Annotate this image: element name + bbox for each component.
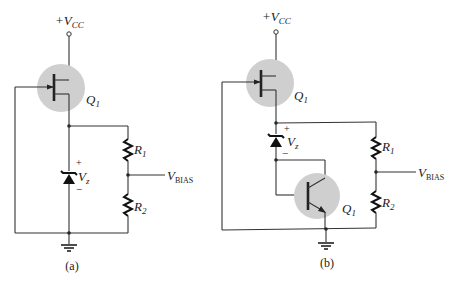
bjt-highlight-b: [294, 173, 340, 219]
resistor-r2-a: [124, 194, 132, 216]
vcc-label-b: +VCC: [262, 9, 292, 26]
vbias-label-b: VBIAS: [418, 165, 444, 182]
caption-b: (b): [320, 256, 334, 270]
vcc-terminal-a: [67, 32, 71, 36]
zener-plus-a: +: [76, 157, 82, 168]
q1-bjt-label-b: Q1: [342, 201, 356, 218]
circuit-diagram: +VCC Q1 + − Vz: [0, 0, 458, 284]
jfet-highlight-a: [37, 64, 85, 112]
r1-label-a: R1: [133, 142, 146, 159]
zener-minus-a: −: [76, 183, 82, 195]
r2-label-a: R2: [133, 199, 147, 216]
r1-label-b: R1: [381, 139, 394, 156]
caption-a: (a): [65, 259, 78, 273]
zener-plus-b: +: [284, 123, 290, 134]
vz-label-a: Vz: [78, 169, 90, 186]
ground-icon-a: [61, 233, 77, 251]
resistor-r1-b: [372, 137, 380, 159]
resistor-r2-b: [372, 191, 380, 213]
vz-label-b: Vz: [287, 134, 299, 151]
vbias-label-a: VBIAS: [167, 168, 193, 185]
zener-diode-a: [61, 171, 77, 184]
circuit-a: +VCC Q1 + − Vz: [15, 13, 193, 273]
vcc-label-a: +VCC: [55, 13, 85, 30]
r2-label-b: R2: [381, 195, 395, 212]
q1-label-a: Q1: [86, 92, 100, 109]
circuit-b: +VCC Q1 + − Vz: [222, 9, 444, 270]
resistor-r1-a: [124, 139, 132, 161]
ground-icon-b: [318, 229, 334, 249]
q1-label-b: Q1: [294, 88, 308, 105]
jfet-highlight-b: [246, 59, 294, 107]
vcc-terminal-b: [274, 30, 278, 34]
zener-diode-b: [268, 134, 284, 147]
